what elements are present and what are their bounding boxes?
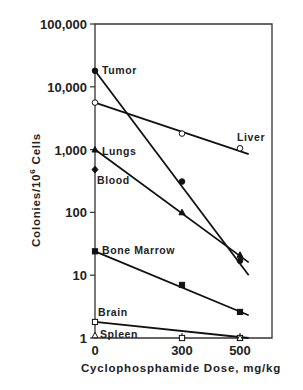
marker-tumor: [179, 179, 185, 185]
y-tick-label: 100: [65, 205, 87, 220]
label-bone-marrow: Bone Marrow: [102, 244, 175, 256]
series-lines: [95, 71, 249, 338]
y-axis-label: Colonies/106 Cells: [28, 133, 42, 247]
x-tick-label: 0: [91, 343, 98, 358]
y-tick-label: 1: [80, 331, 87, 346]
y-tick-label: 100,000: [40, 17, 87, 32]
chart: 1101001,00010,000100,000 0300500 TumorLi…: [0, 0, 303, 390]
marker-brain: [92, 319, 97, 324]
marker-tumor: [237, 258, 243, 264]
label-brain: Brain: [98, 306, 128, 318]
x-axis-label: Cyclophosphamide Dose, mg/kg: [81, 362, 281, 374]
marker-liver: [179, 131, 185, 137]
y-tick-label: 1,000: [54, 143, 87, 158]
marker-liver: [237, 145, 243, 151]
x-tick-label: 300: [171, 343, 193, 358]
x-tick-label: 500: [229, 343, 251, 358]
y-tick-label: 10,000: [47, 80, 87, 95]
label-blood: Blood: [97, 174, 130, 186]
marker-tumor: [92, 68, 98, 74]
series-labels: TumorLiverLungsBloodBone MarrowBrainSple…: [97, 64, 265, 340]
label-tumor: Tumor: [102, 64, 137, 76]
marker-spleen: [92, 332, 98, 338]
label-liver: Liver: [237, 131, 265, 143]
marker-bone-marrow: [179, 282, 184, 287]
label-spleen: Spleen: [100, 328, 138, 340]
marker-bone-marrow: [92, 249, 97, 254]
marker-blood: [92, 166, 98, 173]
y-tick-label: 10: [73, 268, 87, 283]
marker-liver: [92, 100, 98, 106]
marker-bone-marrow: [237, 309, 242, 314]
label-lungs: Lungs: [102, 145, 137, 157]
y-axis: 1101001,00010,000100,000: [40, 17, 95, 346]
marker-brain: [179, 335, 184, 340]
